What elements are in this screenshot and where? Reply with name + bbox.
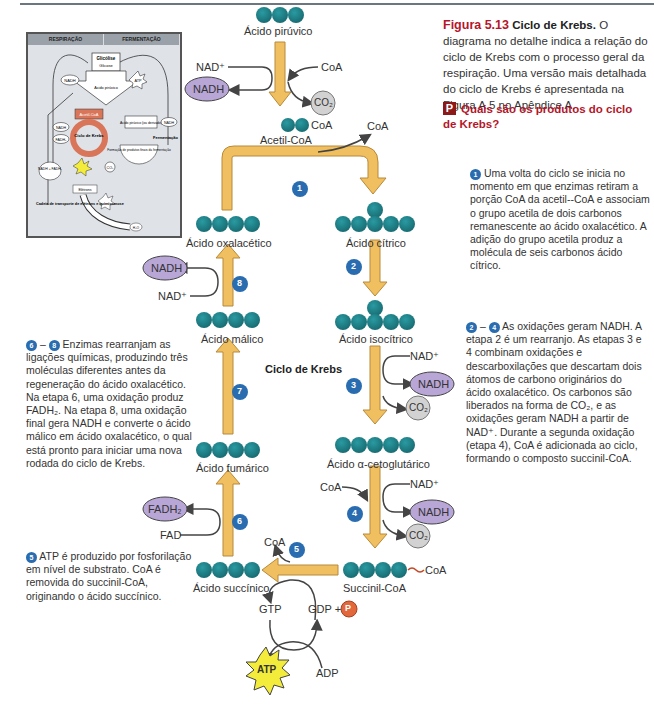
note-step5-text: ATP é produzido por fosforilação em níve… [26, 550, 191, 602]
label-nad-plus-step4: NAD⁺ [410, 478, 439, 491]
label-coa-in-pyruvate: CoA [321, 61, 342, 73]
co2-step4: CO₂ [409, 530, 428, 541]
label-acido-citrico: Ácido cítrico [346, 237, 406, 249]
label-coa-out: CoA [367, 120, 388, 132]
step-2-badge: 2 [351, 261, 356, 271]
thioester-bond [408, 568, 424, 572]
fadh2-step6: FADH₂ [148, 503, 182, 515]
note-step2-badge: 2 [466, 322, 477, 333]
note-steps6-8-text: Enzimas rearranjam as ligações químicas,… [26, 338, 192, 469]
step-8-badge: 8 [237, 278, 242, 288]
cycle-title: Ciclo de Krebs [265, 363, 342, 375]
label-acido-malico: Ácido málico [201, 333, 263, 345]
co2-step3: CO₂ [409, 402, 428, 413]
label-acido-succinico: Ácido succínico [193, 582, 269, 594]
note-step8-badge: 8 [49, 340, 60, 351]
atp-label: ATP [257, 664, 276, 675]
label-coa-on-acetyl: CoA [311, 119, 332, 131]
label-gtp: GTP [259, 603, 282, 615]
step-4-badge: 4 [352, 508, 357, 518]
label-acido-isocitrico: Ácido isocítrico [339, 333, 413, 345]
step-3-badge: 3 [351, 380, 356, 390]
label-coa-in-step4: CoA [320, 481, 341, 493]
note-step1-badge: 1 [470, 169, 481, 180]
label-acido-cetoglutarico: Ácido α-cetoglutárico [327, 458, 430, 470]
note-steps2-4: 2 – 4 As oxidações geram NADH. A etapa 2… [466, 320, 646, 465]
note-step4-badge: 4 [489, 322, 500, 333]
step-6-badge: 6 [237, 516, 242, 526]
note-steps2-4-text: As oxidações geram NADH. A etapa 2 é um … [466, 320, 642, 464]
nadh-step3: NADH [418, 378, 449, 390]
label-nad-plus-step3: NAD⁺ [410, 350, 439, 363]
label-nad-plus-pyruvate: NAD⁺ [196, 61, 225, 74]
note-step1-text: Uma volta do ciclo se inicia no momento … [470, 167, 650, 271]
step-7-badge: 7 [237, 386, 242, 396]
note-dash-2-4: – [480, 320, 486, 332]
label-nad-plus-step8: NAD⁺ [158, 290, 187, 303]
note-steps6-8: 6 – 8 Enzimas rearranjam as ligações quí… [26, 338, 196, 470]
label-coa-out-step5: CoA [264, 536, 285, 548]
label-acido-piruvico: Ácido pirúvico [244, 25, 312, 37]
note-step1: 1 Uma volta do ciclo se inicia no moment… [470, 167, 650, 273]
note-dash-6-8: – [40, 338, 46, 350]
note-step6-badge: 6 [26, 340, 37, 351]
step-5-badge: 5 [294, 544, 299, 554]
note-step5-badge: 5 [26, 552, 37, 563]
co2-pyruvate: CO₂ [314, 97, 333, 108]
label-acetil-coa: Acetil-CoA [260, 134, 312, 146]
nadh-step4: NADH [418, 506, 449, 518]
note-step5: 5 ATP é produzido por fosforilação em ní… [26, 550, 198, 603]
label-fad: FAD [160, 529, 181, 541]
label-coa-succinil: CoA [425, 564, 446, 576]
label-acido-fumarico: Ácido fumárico [196, 462, 269, 474]
label-acido-oxalacetico: Ácido oxalacético [186, 237, 272, 249]
nadh-step8: NADH [151, 262, 182, 274]
label-gdp-plus: GDP + [308, 603, 341, 615]
phosphate-label: P [345, 603, 351, 613]
label-adp: ADP [316, 667, 339, 679]
nadh-pyruvate: NADH [193, 83, 224, 95]
step-1-badge: 1 [297, 183, 302, 193]
label-succinil-coa: Succinil-CoA [343, 582, 406, 594]
